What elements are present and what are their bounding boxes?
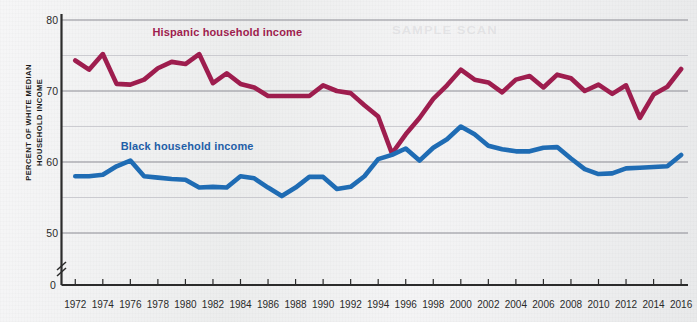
x-axis-tick-label: 2008 [560,299,582,310]
x-axis-tick-label: 1982 [202,299,224,310]
x-axis-tick-label: 2006 [532,299,554,310]
x-axis-tick-label: 2002 [477,299,499,310]
series-line-0 [75,54,681,153]
x-axis-tick-label: 2016 [670,299,692,310]
series-label-0: Hispanic household income [152,26,302,38]
x-axis-tick-label: 1988 [284,299,306,310]
x-axis-tick-label: 1998 [422,299,444,310]
x-axis-tick-label: 2010 [587,299,609,310]
x-axis-tick-label: 1984 [229,299,251,310]
chart-figure: SAMPLE SCAN PERCENT OF WHITE MEDIAN HOUS… [0,0,697,322]
x-axis-tick-label: 2012 [615,299,637,310]
x-axis-tick-label: 2014 [642,299,664,310]
x-axis-tick-label: 1978 [147,299,169,310]
x-axis-tick-label: 1974 [92,299,114,310]
series-label-1: Black household income [121,140,254,152]
x-axis-tick-label: 1980 [174,299,196,310]
x-axis-tick-label: 1992 [340,299,362,310]
x-axis-tick-label: 2004 [505,299,527,310]
x-axis-tick-label: 1990 [312,299,334,310]
x-axis-tick-label: 1972 [64,299,86,310]
x-axis-tick-label: 2000 [450,299,472,310]
x-axis-tick-label: 1976 [119,299,141,310]
series-line-1 [75,127,681,197]
data-series-lines [75,54,681,196]
chart-plot [0,0,697,322]
x-axis-tick-label: 1996 [395,299,417,310]
x-axis-tick-label: 1994 [367,299,389,310]
x-axis-tick-label: 1986 [257,299,279,310]
